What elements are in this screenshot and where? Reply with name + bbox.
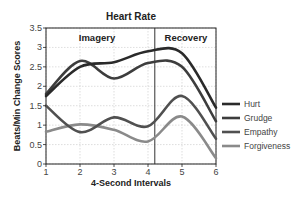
y-axis-label: Beats/Min Change Scores bbox=[12, 41, 22, 152]
y-tick-label: 2.5 bbox=[29, 62, 42, 72]
y-tick-label: 0.5 bbox=[29, 140, 42, 150]
recovery-label: Recovery bbox=[165, 32, 208, 43]
legend-label: Empathy bbox=[244, 127, 278, 137]
series-line-empathy bbox=[46, 96, 216, 139]
legend-label: Forgiveness bbox=[244, 141, 290, 151]
chart-title: Heart Rate bbox=[106, 11, 156, 22]
heart-rate-chart: Heart Rate Imagery Recovery 00.511.522.5… bbox=[0, 0, 305, 199]
x-axis-label: 4-Second Intervals bbox=[91, 178, 171, 188]
x-tick-label: 1 bbox=[43, 167, 48, 177]
x-tick-label: 6 bbox=[213, 167, 218, 177]
series-line-grudge bbox=[46, 61, 216, 122]
y-tick-label: 0 bbox=[37, 159, 42, 169]
x-axis-ticks: 123456 bbox=[43, 164, 218, 177]
x-tick-label: 3 bbox=[111, 167, 116, 177]
y-tick-label: 3 bbox=[37, 42, 42, 52]
imagery-label: Imagery bbox=[79, 32, 116, 43]
legend: HurtGrudgeEmpathyForgiveness bbox=[222, 99, 290, 151]
series-lines bbox=[46, 48, 216, 158]
plot-frame bbox=[46, 28, 216, 164]
x-tick-label: 4 bbox=[145, 167, 150, 177]
x-tick-label: 5 bbox=[179, 167, 184, 177]
y-tick-label: 1 bbox=[37, 120, 42, 130]
y-tick-label: 2 bbox=[37, 81, 42, 91]
y-tick-label: 3.5 bbox=[29, 23, 42, 33]
legend-label: Hurt bbox=[244, 99, 261, 109]
legend-label: Grudge bbox=[244, 113, 273, 123]
y-tick-label: 1.5 bbox=[29, 101, 42, 111]
y-axis-ticks: 00.511.522.533.5 bbox=[29, 23, 46, 169]
x-tick-label: 2 bbox=[77, 167, 82, 177]
grid bbox=[46, 28, 216, 164]
